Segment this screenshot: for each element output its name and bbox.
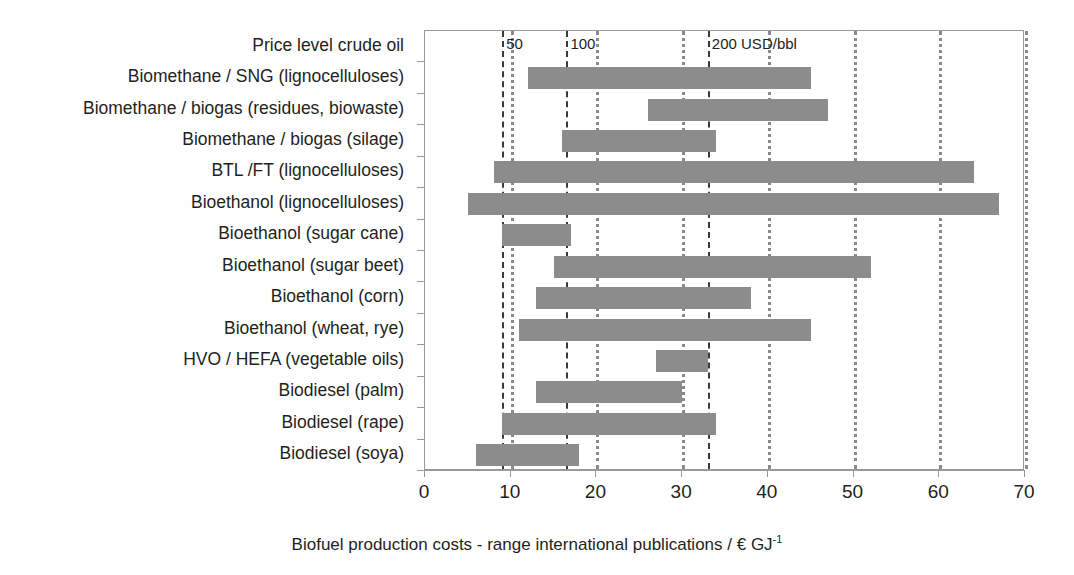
range-bar-1 xyxy=(528,67,811,89)
gridline-70 xyxy=(1025,31,1028,469)
category-label-1: Biomethane / SNG (lignocelluloses) xyxy=(0,68,404,86)
x-axis-title: Biofuel production costs - range interna… xyxy=(0,534,1074,553)
y-axis-tick-8 xyxy=(417,313,424,314)
x-axis-tick-0 xyxy=(424,470,425,477)
category-label-6: Bioethanol (sugar cane) xyxy=(0,225,404,243)
x-axis-title-main: Biofuel production costs - range interna… xyxy=(292,535,773,554)
category-label-3: Biomethane / biogas (silage) xyxy=(0,131,404,149)
gridline-50 xyxy=(854,31,857,469)
y-axis-tick-12 xyxy=(417,439,424,440)
category-label-4: BTL /FT (lignocelluloses) xyxy=(0,162,404,180)
x-axis-tick-40 xyxy=(767,470,768,477)
x-axis-tick-50 xyxy=(853,470,854,477)
range-bar-8 xyxy=(536,287,750,309)
x-axis-tick-30 xyxy=(681,470,682,477)
range-bar-12 xyxy=(502,413,716,435)
range-bar-13 xyxy=(476,444,579,466)
y-axis-tick-2 xyxy=(417,124,424,125)
crude-oil-price-line-200-usd-bbl xyxy=(708,31,710,469)
category-label-12: Biodiesel (rape) xyxy=(0,414,404,432)
y-axis-tick-13 xyxy=(417,470,424,471)
x-axis-tick-70 xyxy=(1024,470,1025,477)
gridline-40 xyxy=(768,31,771,469)
crude-oil-price-label-0: 50 xyxy=(506,36,523,51)
plot-area: 50100200 USD/bbl xyxy=(424,30,1024,470)
category-label-8: Bioethanol (corn) xyxy=(0,288,404,306)
category-label-2: Biomethane / biogas (residues, biowaste) xyxy=(0,100,404,118)
range-bar-4 xyxy=(494,161,974,183)
category-label-10: HVO / HEFA (vegetable oils) xyxy=(0,351,404,369)
range-bar-6 xyxy=(502,224,571,246)
x-axis-title-superscript: -1 xyxy=(773,533,783,545)
range-bar-5 xyxy=(468,193,999,215)
category-label-11: Biodiesel (palm) xyxy=(0,382,404,400)
y-axis-tick-9 xyxy=(417,344,424,345)
range-bar-2 xyxy=(648,99,828,121)
x-axis-tick-20 xyxy=(595,470,596,477)
y-axis-tick-11 xyxy=(417,407,424,408)
category-label-7: Bioethanol (sugar beet) xyxy=(0,257,404,275)
range-bar-3 xyxy=(562,130,716,152)
crude-oil-price-label-1: 100 xyxy=(570,36,595,51)
range-bar-11 xyxy=(536,381,682,403)
x-axis-tick-label-30: 30 xyxy=(671,482,692,501)
y-axis-tick-7 xyxy=(417,281,424,282)
chart-figure: Price level crude oilBiomethane / SNG (l… xyxy=(0,0,1074,575)
crude-oil-price-line-50 xyxy=(502,31,504,469)
y-axis-tick-5 xyxy=(417,219,424,220)
y-axis-line xyxy=(424,30,425,471)
x-axis-tick-10 xyxy=(510,470,511,477)
y-axis-tick-6 xyxy=(417,250,424,251)
x-axis-tick-label-40: 40 xyxy=(756,482,777,501)
category-label-5: Bioethanol (lignocelluloses) xyxy=(0,194,404,212)
range-bar-10 xyxy=(656,350,707,372)
y-axis-tick-1 xyxy=(417,93,424,94)
y-axis-tick-0 xyxy=(417,61,424,62)
category-label-column: Price level crude oilBiomethane / SNG (l… xyxy=(0,30,412,470)
x-axis-tick-label-50: 50 xyxy=(842,482,863,501)
x-axis-tick-label-10: 10 xyxy=(499,482,520,501)
x-axis-tick-label-20: 20 xyxy=(585,482,606,501)
x-axis-tick-label-60: 60 xyxy=(928,482,949,501)
category-label-13: Biodiesel (soya) xyxy=(0,445,404,463)
category-label-0: Price level crude oil xyxy=(0,37,404,55)
range-bar-9 xyxy=(519,319,810,341)
x-axis-tick-label-0: 0 xyxy=(419,482,430,501)
gridline-60 xyxy=(939,31,942,469)
gridline-30 xyxy=(682,31,685,469)
y-axis-tick-10 xyxy=(417,376,424,377)
crude-oil-price-label-2: 200 USD/bbl xyxy=(712,36,797,51)
x-axis-tick-60 xyxy=(938,470,939,477)
gridline-10 xyxy=(511,31,514,469)
y-axis-tick-3 xyxy=(417,156,424,157)
y-axis-tick-4 xyxy=(417,187,424,188)
x-axis-line: 010203040506070 xyxy=(424,470,1024,471)
x-axis-tick-label-70: 70 xyxy=(1013,482,1034,501)
category-label-9: Bioethanol (wheat, rye) xyxy=(0,320,404,338)
range-bar-7 xyxy=(554,256,871,278)
